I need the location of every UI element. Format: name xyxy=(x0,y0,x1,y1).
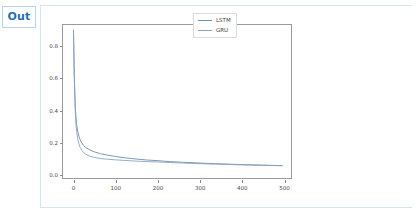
x-tick-mark xyxy=(200,180,201,183)
legend-label-lstm: LSTM xyxy=(216,17,231,24)
x-tick-mark xyxy=(242,180,243,183)
y-tick-label: 0.2 xyxy=(49,140,58,146)
y-tick-mark xyxy=(60,46,63,47)
y-tick-mark xyxy=(60,175,63,176)
y-tick-mark xyxy=(60,143,63,144)
y-tick-label: 0.8 xyxy=(49,43,58,49)
x-tick-label: 200 xyxy=(153,185,164,191)
y-tick-mark xyxy=(60,111,63,112)
x-tick-mark xyxy=(158,180,159,183)
y-tick-mark xyxy=(60,78,63,79)
x-tick-mark xyxy=(74,180,75,183)
legend-item-lstm: LSTM xyxy=(198,17,231,24)
plot-canvas xyxy=(63,25,291,178)
y-tick-label: 0.4 xyxy=(49,108,58,114)
series-line-gru xyxy=(73,30,282,166)
legend-item-gru: GRU xyxy=(198,27,231,34)
notebook-output-row: Out 0.00.20.40.60.80100200300400500 LSTM… xyxy=(0,0,418,220)
y-tick-label: 0.0 xyxy=(49,172,58,178)
series-line-lstm xyxy=(73,30,282,166)
output-prompt-label: Out xyxy=(2,6,36,28)
x-tick-mark xyxy=(116,180,117,183)
x-tick-label: 300 xyxy=(195,185,206,191)
legend-label-gru: GRU xyxy=(216,27,228,34)
matplotlib-figure: 0.00.20.40.60.80100200300400500 LSTM GRU xyxy=(41,6,413,207)
x-tick-label: 0 xyxy=(72,185,76,191)
notebook-output-area: 0.00.20.40.60.80100200300400500 LSTM GRU xyxy=(40,5,412,208)
x-tick-mark xyxy=(285,180,286,183)
legend-swatch-lstm xyxy=(198,20,212,21)
legend-swatch-gru xyxy=(198,30,212,31)
x-tick-label: 100 xyxy=(111,185,122,191)
x-tick-label: 500 xyxy=(279,185,290,191)
plot-axes: 0.00.20.40.60.80100200300400500 xyxy=(62,24,292,179)
chart-legend: LSTM GRU xyxy=(193,13,237,38)
x-tick-label: 400 xyxy=(237,185,248,191)
y-tick-label: 0.6 xyxy=(49,75,58,81)
